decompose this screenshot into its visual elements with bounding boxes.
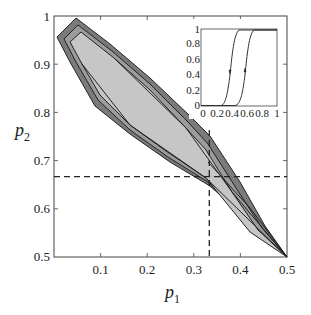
svg-text:0.5: 0.5 [34,249,50,264]
svg-text:0: 0 [200,107,206,119]
svg-text:0.9: 0.9 [34,57,50,72]
svg-text:0.5: 0.5 [279,262,295,277]
y-tick-labels: 0.5 0.6 0.7 0.8 0.9 1 [34,9,51,264]
svg-text:0.6: 0.6 [240,107,254,119]
x-tick-labels: 0.1 0.2 0.3 0.4 0.5 [92,262,295,277]
svg-text:0.4: 0.4 [232,262,249,277]
svg-text:0.4: 0.4 [186,68,200,80]
svg-text:1: 1 [274,107,280,119]
svg-text:0.2: 0.2 [210,107,224,119]
svg-text:0.4: 0.4 [225,107,239,119]
svg-text:0.1: 0.1 [92,262,108,277]
svg-text:0.7: 0.7 [34,153,51,168]
chart: 0.5 0.6 0.7 0.8 0.9 1 0.1 0.2 0.3 0.4 0.… [0,0,311,315]
svg-text:0.3: 0.3 [186,262,202,277]
svg-text:0.8: 0.8 [186,37,200,49]
x-axis-title: p1 [163,282,180,306]
svg-text:0.6: 0.6 [34,201,51,216]
svg-text:1: 1 [195,23,201,35]
inset-chart: 0 0.2 0.4 0.6 0.8 1 0 0.2 0.4 0.6 0.8 1 [186,19,280,119]
svg-text:0.2: 0.2 [186,84,200,96]
svg-text:0.8: 0.8 [255,107,269,119]
inset-x-tick-labels: 0 0.2 0.4 0.6 0.8 1 [200,107,280,119]
svg-text:0.6: 0.6 [186,53,200,65]
svg-text:0.8: 0.8 [34,105,50,120]
svg-text:0.2: 0.2 [139,262,155,277]
y-axis-title: p2 [13,120,30,144]
svg-text:1: 1 [44,9,51,24]
